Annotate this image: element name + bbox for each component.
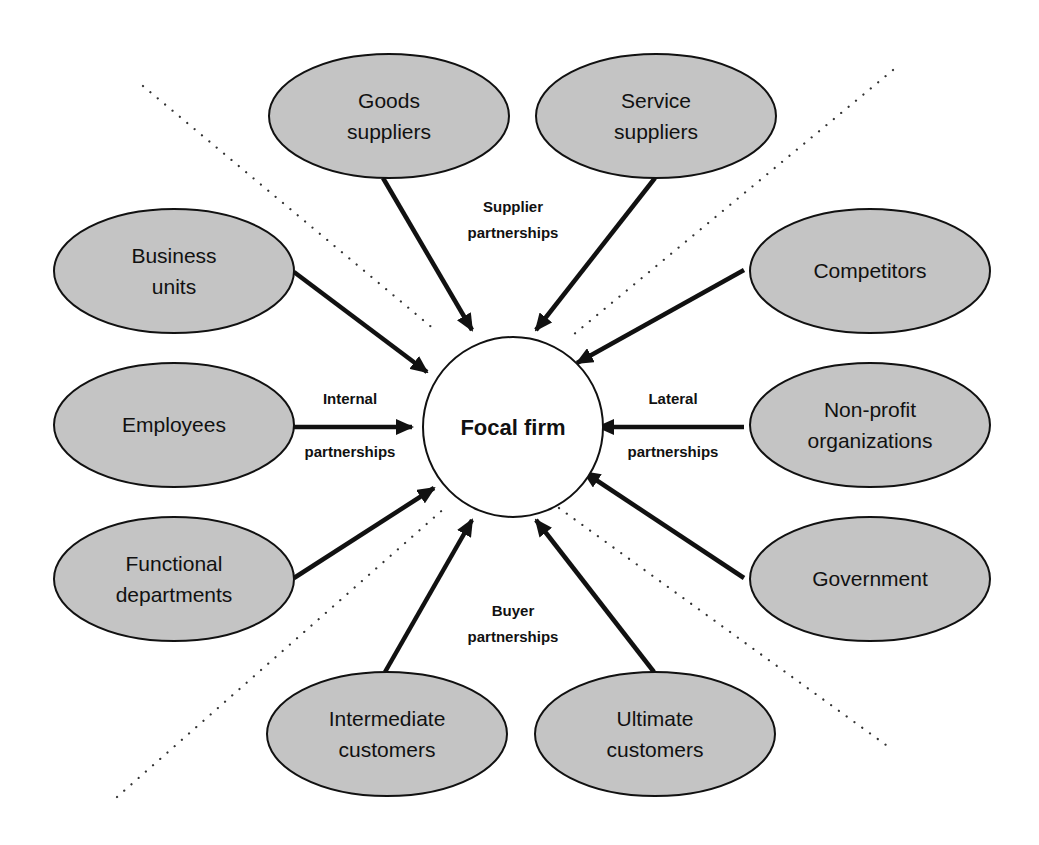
node-label-line: Business [131,244,216,267]
node-label-line: suppliers [614,120,698,143]
node-goods-suppliers: Goodssuppliers [269,54,509,178]
node-government: Government [750,517,990,641]
node-intermediate-customers: Intermediatecustomers [267,672,507,796]
node-shape [54,517,294,641]
group-label-line: partnerships [468,224,559,241]
focal-firm-label: Focal firm [460,415,565,440]
group-label-buyer: Buyerpartnerships [468,602,559,645]
arrow-from-competitors [577,270,744,363]
node-shape [267,672,507,796]
arrow-from-government [584,472,744,578]
node-service-suppliers: Servicesuppliers [536,54,776,178]
node-shape [54,209,294,333]
node-label-line: Non-profit [824,398,916,421]
arrow-from-goods-suppliers [383,178,472,330]
node-label-line: Government [812,567,928,590]
node-label-line: Service [621,89,691,112]
node-functional-departments: Functionaldepartments [54,517,294,641]
node-business-units: Businessunits [54,209,294,333]
node-label-line: Functional [126,552,223,575]
arrow-from-ultimate-customers [536,520,654,672]
node-label-line: Competitors [813,259,926,282]
node-label-line: organizations [808,429,933,452]
arrow-from-service-suppliers [536,178,655,330]
arrow-from-business-units [294,272,427,372]
node-label-line: departments [116,583,233,606]
node-employees: Employees [54,363,294,487]
group-label-line: partnerships [305,443,396,460]
node-label-line: Goods [358,89,420,112]
node-label-line: suppliers [347,120,431,143]
group-label-line: Buyer [492,602,535,619]
node-shape [750,363,990,487]
group-label-line: partnerships [628,443,719,460]
node-shape [269,54,509,178]
partnership-diagram: Focal firm GoodssuppliersServicesupplier… [0,0,1039,845]
node-label-line: units [152,275,196,298]
node-non-profit-organizations: Non-profitorganizations [750,363,990,487]
focal-firm-circle: Focal firm [423,337,603,517]
node-label-line: Employees [122,413,226,436]
group-label-line: partnerships [468,628,559,645]
arrow-from-intermediate-customers [385,520,472,672]
node-competitors: Competitors [750,209,990,333]
node-label-line: Intermediate [329,707,446,730]
node-shape [535,672,775,796]
arrow-from-functional-departments [294,488,434,578]
node-label-line: customers [607,738,704,761]
group-label-line: Internal [323,390,377,407]
node-ultimate-customers: Ultimatecustomers [535,672,775,796]
node-label-line: customers [339,738,436,761]
group-label-supplier: Supplierpartnerships [468,198,559,241]
node-label-line: Ultimate [616,707,693,730]
group-label-line: Lateral [648,390,697,407]
group-label-line: Supplier [483,198,543,215]
node-shape [536,54,776,178]
